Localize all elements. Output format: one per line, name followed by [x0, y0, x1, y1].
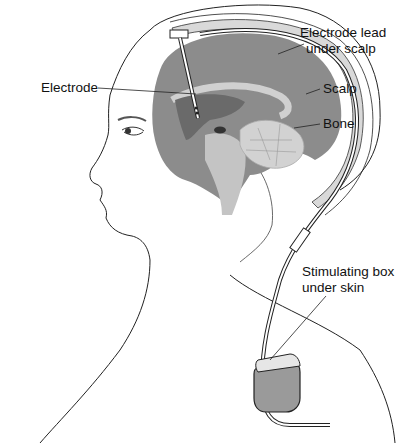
label-electrode-lead: Electrode lead under scalp	[300, 25, 386, 57]
label-scalp: Scalp	[323, 81, 357, 97]
label-stimulating-box: Stimulating box under skin	[302, 264, 394, 296]
midbrain-spot	[214, 127, 226, 134]
leader-box	[270, 296, 326, 360]
burr-hole-cap	[170, 30, 188, 38]
label-bone: Bone	[323, 116, 355, 132]
lead-connector	[290, 228, 310, 252]
label-electrode: Electrode	[41, 80, 98, 96]
dbs-illustration	[0, 0, 414, 443]
